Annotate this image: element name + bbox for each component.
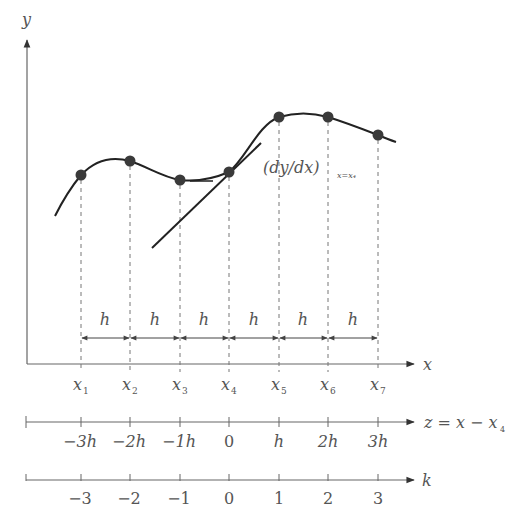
- h-label-6: h: [348, 310, 358, 329]
- spacing-labels: h h h h h h: [100, 310, 358, 329]
- z-tick-6: 2h: [317, 432, 338, 451]
- y-axis-label: y: [21, 10, 32, 29]
- y-axis: y: [21, 10, 32, 364]
- svg-text:x: x: [271, 375, 280, 394]
- svg-text:x: x: [73, 375, 82, 394]
- k-tick-7: 3: [373, 489, 383, 508]
- point-x3: [175, 175, 186, 186]
- svg-text:1: 1: [83, 386, 89, 396]
- z-tick-7: 3h: [368, 432, 388, 451]
- z-axis-label-sub: 4: [500, 425, 505, 434]
- z-tick-1: −3h: [63, 432, 97, 451]
- h-label-3: h: [199, 310, 209, 329]
- point-x1: [76, 170, 87, 181]
- k-tick-5: 1: [274, 489, 284, 508]
- svg-text:7: 7: [380, 386, 386, 396]
- svg-text:3: 3: [182, 386, 188, 396]
- k-tick-3: −1: [167, 489, 191, 508]
- k-axis: k −3 −2 −1 0 1 2 3: [26, 471, 432, 508]
- z-axis-label: z = x − x: [423, 413, 498, 432]
- k-axis-label: k: [422, 471, 432, 490]
- svg-text:6: 6: [330, 386, 336, 396]
- k-tick-4: 0: [224, 489, 234, 508]
- derivative-annotation: (dy/dx) x=x₄: [263, 158, 356, 180]
- point-x5: [274, 112, 285, 123]
- h-label-1: h: [100, 310, 110, 329]
- k-tick-6: 2: [323, 489, 333, 508]
- h-label-4: h: [249, 310, 259, 329]
- finite-difference-diagram: y x (dy/dx) x=x₄: [0, 0, 526, 529]
- derivative-subscript: x=x₄: [337, 171, 356, 180]
- z-axis: z = x − x 4 −3h −2h −1h 0 h 2h 3h: [26, 413, 505, 451]
- x-label-5: x5: [271, 375, 287, 396]
- k-tick-1: −3: [68, 489, 92, 508]
- z-tick-3: −1h: [162, 432, 196, 451]
- svg-text:2: 2: [132, 386, 138, 396]
- x-label-6: x6: [320, 375, 336, 396]
- x-point-labels: x1 x2 x3 x4 x5 x6 x7: [73, 375, 386, 396]
- h-label-2: h: [150, 310, 160, 329]
- x-label-4: x4: [221, 375, 237, 396]
- point-x2: [125, 156, 136, 167]
- svg-text:5: 5: [281, 386, 287, 396]
- function-curve: [55, 114, 396, 216]
- x-label-1: x1: [73, 375, 89, 396]
- svg-text:x: x: [221, 375, 230, 394]
- point-x6: [323, 112, 334, 123]
- tangent-line: [152, 143, 261, 248]
- point-x4: [224, 167, 235, 178]
- svg-text:x: x: [172, 375, 181, 394]
- x-label-2: x2: [122, 375, 138, 396]
- derivative-label: (dy/dx): [263, 158, 319, 177]
- x-label-7: x7: [370, 375, 386, 396]
- x-axis-label: x: [423, 355, 432, 374]
- x-label-3: x3: [172, 375, 188, 396]
- point-x7: [373, 130, 384, 141]
- svg-text:x: x: [320, 375, 329, 394]
- z-tick-2: −2h: [112, 432, 146, 451]
- z-tick-5: h: [274, 432, 284, 451]
- svg-text:x: x: [370, 375, 379, 394]
- svg-text:4: 4: [231, 386, 237, 396]
- z-tick-4: 0: [224, 432, 234, 451]
- x-axis: x: [27, 355, 432, 374]
- svg-text:x: x: [122, 375, 131, 394]
- k-tick-2: −2: [117, 489, 141, 508]
- h-label-5: h: [298, 310, 308, 329]
